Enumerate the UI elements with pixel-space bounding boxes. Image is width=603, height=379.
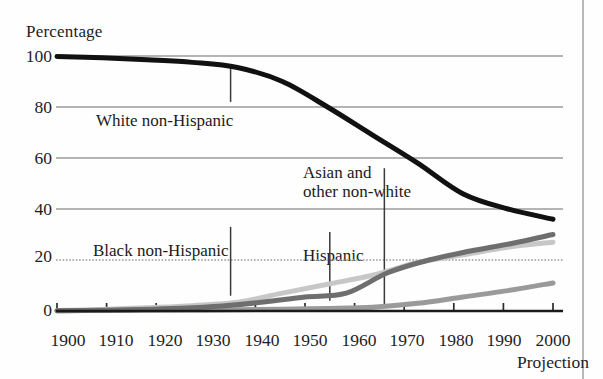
annotation-leader-lines-group bbox=[231, 66, 385, 306]
data-series-group bbox=[57, 57, 553, 311]
gridlines-group bbox=[56, 56, 563, 260]
series-line-hispanic bbox=[57, 235, 553, 311]
series-line-white-non-hispanic bbox=[57, 57, 553, 220]
chart-plot-area bbox=[0, 0, 603, 379]
series-line-black-non-hispanic bbox=[57, 242, 553, 310]
figure-container: Percentage 100 80 60 40 20 0 1900 1910 1… bbox=[0, 0, 603, 379]
